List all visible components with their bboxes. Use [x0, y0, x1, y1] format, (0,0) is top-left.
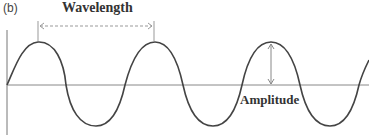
wave-diagram	[0, 0, 369, 135]
sine-wave	[7, 42, 369, 126]
wavelength-bracket	[38, 21, 154, 41]
amplitude-label: Amplitude	[240, 92, 299, 108]
amplitude-arrow	[268, 44, 274, 84]
